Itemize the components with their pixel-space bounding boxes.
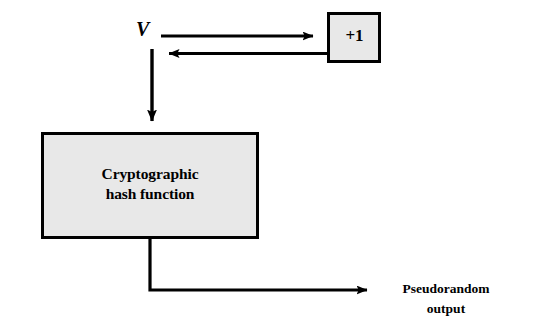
increment-box xyxy=(329,14,380,62)
diagram-canvas xyxy=(0,0,533,334)
edge-hash-to-output xyxy=(150,238,367,290)
hash-function-box xyxy=(43,134,258,238)
hash-prng-diagram: V +1 Cryptographic hash function Pseudor… xyxy=(0,0,533,334)
